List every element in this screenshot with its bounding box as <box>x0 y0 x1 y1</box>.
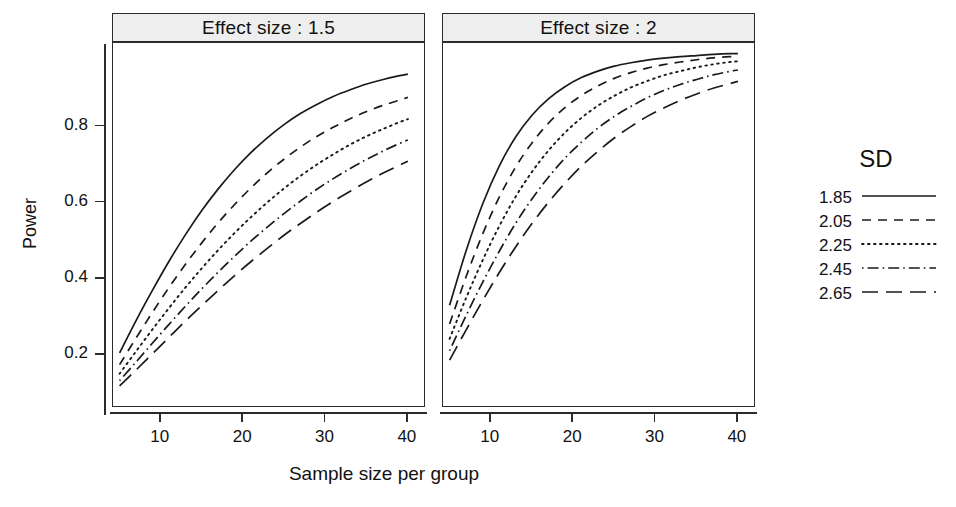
legend-line-swatch <box>860 187 938 205</box>
x-axis-tick <box>489 412 491 422</box>
x-axis-tick-label: 30 <box>299 427 351 447</box>
legend: SD 1.852.052.252.452.65 <box>798 145 956 305</box>
x-axis-tick <box>736 412 738 422</box>
panel-strip-header: Effect size : 2 <box>442 13 755 42</box>
y-axis-tick <box>95 125 105 127</box>
series-line <box>450 70 738 351</box>
panel-strip-header: Effect size : 1.5 <box>112 13 425 42</box>
legend-item-label: 2.25 <box>798 236 852 256</box>
y-axis-tick-label: 0.8 <box>36 115 88 135</box>
x-axis-tick <box>654 412 656 422</box>
x-axis-tick-label: 10 <box>134 427 186 447</box>
legend-item[interactable]: 2.05 <box>798 211 956 233</box>
y-axis-tick <box>95 277 105 279</box>
y-axis-tick <box>95 201 105 203</box>
series-line <box>120 74 408 353</box>
x-axis-tick-label: 40 <box>381 427 433 447</box>
legend-item-label: 2.05 <box>798 212 852 232</box>
y-axis-tick-label: 0.4 <box>36 267 88 287</box>
x-axis-tick <box>324 412 326 422</box>
legend-item-label: 2.45 <box>798 260 852 280</box>
x-axis-tick-label: 20 <box>546 427 598 447</box>
legend-item[interactable]: 2.65 <box>798 283 956 305</box>
y-axis-tick <box>95 353 105 355</box>
x-axis-tick <box>241 412 243 422</box>
x-axis-line <box>440 412 757 414</box>
legend-item[interactable]: 2.25 <box>798 235 956 257</box>
series-line <box>450 56 738 324</box>
series-line <box>120 161 408 386</box>
x-axis-line <box>110 412 427 414</box>
legend-item-label: 1.85 <box>798 188 852 208</box>
legend-line-swatch <box>860 211 938 229</box>
x-axis-tick-label: 20 <box>216 427 268 447</box>
x-axis-tick-label: 40 <box>711 427 763 447</box>
legend-line-swatch <box>860 259 938 277</box>
x-axis-tick-label: 10 <box>464 427 516 447</box>
legend-item[interactable]: 2.45 <box>798 259 956 281</box>
x-axis-label: Sample size per group <box>0 463 768 485</box>
panel-strip-label: Effect size : 1.5 <box>202 17 335 39</box>
x-axis-tick-label: 30 <box>629 427 681 447</box>
series-line <box>120 140 408 381</box>
panel-strip-label: Effect size : 2 <box>540 17 657 39</box>
series-line <box>450 54 738 306</box>
x-axis-tick <box>406 412 408 422</box>
legend-title: SD <box>826 145 926 173</box>
series-line <box>450 61 738 339</box>
series-line <box>120 97 408 364</box>
legend-item[interactable]: 1.85 <box>798 187 956 209</box>
series-line <box>120 119 408 374</box>
plot-area <box>112 42 425 407</box>
x-axis-tick <box>571 412 573 422</box>
legend-item-label: 2.65 <box>798 284 852 304</box>
y-axis-tick-label: 0.2 <box>36 343 88 363</box>
legend-line-swatch <box>860 283 938 301</box>
figure-root: Power 0.20.40.60.8 Effect size : 1.5 Eff… <box>0 0 956 507</box>
x-axis-tick <box>159 412 161 422</box>
plot-area <box>442 42 755 407</box>
series-line <box>450 81 738 360</box>
legend-line-swatch <box>860 235 938 253</box>
y-axis-line <box>104 44 106 415</box>
y-axis-tick-label: 0.6 <box>36 191 88 211</box>
